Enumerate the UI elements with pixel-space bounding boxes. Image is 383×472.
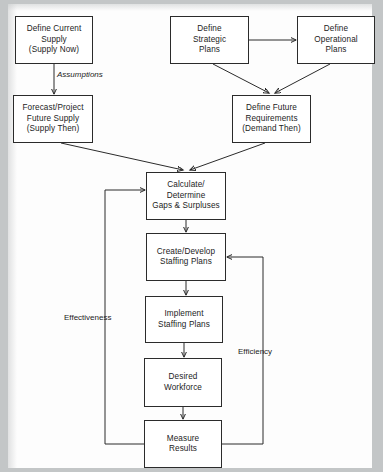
- node-define-current-supply[interactable]: Define Current Supply (Supply Now): [15, 16, 93, 64]
- edge-strategic-to-requirements: [213, 64, 269, 93]
- edge-forecast-to-calculate: [61, 143, 183, 170]
- node-create-develop-staffing-plans[interactable]: Create/Develop Staffing Plans: [146, 233, 226, 281]
- edge-label-assumptions: Assumptions: [57, 70, 103, 79]
- edge-requirements-to-calculate: [190, 143, 265, 170]
- flowchart-page: Define Current Supply (Supply Now) Forec…: [0, 0, 383, 472]
- node-define-future-requirements[interactable]: Define Future Requirements (Demand Then): [232, 95, 311, 143]
- edge-label-efficiency: Efficiency: [238, 347, 272, 356]
- edge-operational-to-requirements: [275, 64, 330, 93]
- node-define-operational-plans[interactable]: Define Operational Plans: [297, 16, 375, 64]
- flowchart-canvas: Define Current Supply (Supply Now) Forec…: [0, 0, 383, 472]
- node-measure-results[interactable]: Measure Results: [144, 420, 222, 468]
- node-implement-staffing-plans[interactable]: Implement Staffing Plans: [145, 296, 223, 343]
- node-calculate-gaps-surpluses[interactable]: Calculate/ Determine Gaps & Surpluses: [146, 172, 226, 220]
- node-desired-workforce[interactable]: Desired Workforce: [144, 358, 222, 407]
- node-forecast-future-supply[interactable]: Forecast/Project Future Supply (Supply T…: [13, 95, 93, 143]
- node-define-strategic-plans[interactable]: Define Strategic Plans: [170, 16, 249, 64]
- edge-label-effectiveness: Effectiveness: [64, 313, 111, 322]
